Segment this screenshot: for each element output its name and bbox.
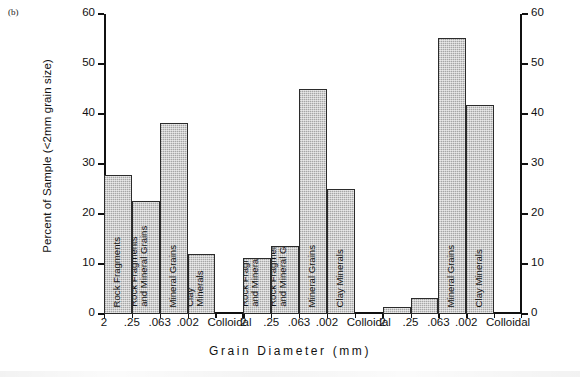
y-tick-label-right-40: 40 (531, 107, 544, 119)
plot-area: 0102030405060 0102030405060 Rock Fragmen… (104, 14, 522, 314)
bar (383, 307, 411, 315)
bar-label: Clay Minerals (188, 261, 206, 307)
y-tick-label-right-20: 20 (531, 207, 544, 219)
y-tick-label-left-40: 40 (82, 107, 95, 119)
y-tick-left-60 (98, 13, 104, 14)
y-tick-label-right-10: 10 (531, 257, 544, 269)
bar: Mineral Grains (160, 123, 188, 314)
y-tick-left-50 (98, 63, 104, 64)
bar-label: Rock Fragments and Mineral Grains (132, 208, 150, 308)
x-tick-label: 2 (370, 316, 396, 328)
x-tick-label: .25 (258, 316, 284, 328)
bar: Mineral Grains (299, 89, 327, 314)
y-tick-label-right-30: 30 (531, 157, 544, 169)
x-tick-label: .25 (398, 316, 424, 328)
bar-label: Rock Fragments and Mineral Grains (271, 253, 289, 307)
x-tick-label: Colloidal (479, 316, 537, 328)
y-tick-label-left-10: 10 (82, 257, 95, 269)
panel-label: (b) (8, 7, 19, 17)
x-axis-title: Grain Diameter (mm) (0, 344, 580, 358)
bar: Rock Fragments and Mineral Grains (271, 246, 299, 314)
bar-label: Mineral Grains (167, 130, 177, 307)
bar-label: Rock Fragments (112, 182, 122, 307)
x-tick-label: .063 (425, 316, 451, 328)
bar: Mineral Grains (438, 38, 466, 314)
x-tick-label: 2 (230, 316, 256, 328)
bar: Clay Minerals (327, 189, 355, 314)
x-tick-label: .002 (453, 316, 479, 328)
bar-label: Mineral Grains (446, 45, 456, 307)
bar: Clay Minerals (466, 105, 494, 314)
figure-panel-b: (b) Percent of Sample (<2mm grain size) … (0, 0, 580, 379)
y-tick-label-left-60: 60 (82, 7, 95, 19)
bar-label: Mineral Grains (307, 96, 317, 307)
x-tick-label: .25 (119, 316, 145, 328)
bar-label: Clay Minerals (334, 196, 344, 307)
bar-label: Clay Minerals (474, 112, 484, 307)
bar-label: Rock Fragments and Mineral Grains (243, 265, 261, 307)
y-tick-label-left-50: 50 (82, 57, 95, 69)
y-tick-label-left-20: 20 (82, 207, 95, 219)
y-tick-right-10 (522, 263, 528, 264)
x-tick-label: .063 (147, 316, 173, 328)
y-tick-right-60 (522, 13, 528, 14)
scan-artifact (0, 371, 580, 377)
x-tick-label: 2 (91, 316, 117, 328)
bar (411, 298, 439, 314)
y-tick-right-50 (522, 63, 528, 64)
y-tick-label-left-30: 30 (82, 157, 95, 169)
y-tick-right-40 (522, 113, 528, 114)
y-tick-left-40 (98, 113, 104, 114)
y-tick-right-20 (522, 213, 528, 214)
bar: Rock Fragments and Mineral Grains (243, 258, 271, 314)
bar: Rock Fragments (104, 175, 132, 314)
y-tick-right-30 (522, 163, 528, 164)
y-tick-label-right-50: 50 (531, 57, 544, 69)
y-axis-title: Percent of Sample (<2mm grain size) (41, 21, 53, 291)
bar: Rock Fragments and Mineral Grains (132, 201, 160, 315)
y-tick-right-0 (522, 313, 528, 314)
x-tick-label: .002 (314, 316, 340, 328)
x-tick-label: .002 (175, 316, 201, 328)
x-tick-mark (521, 314, 522, 318)
bar: Clay Minerals (188, 254, 216, 314)
y-tick-label-right-60: 60 (531, 7, 544, 19)
x-tick-label: .063 (286, 316, 312, 328)
y-tick-left-30 (98, 163, 104, 164)
